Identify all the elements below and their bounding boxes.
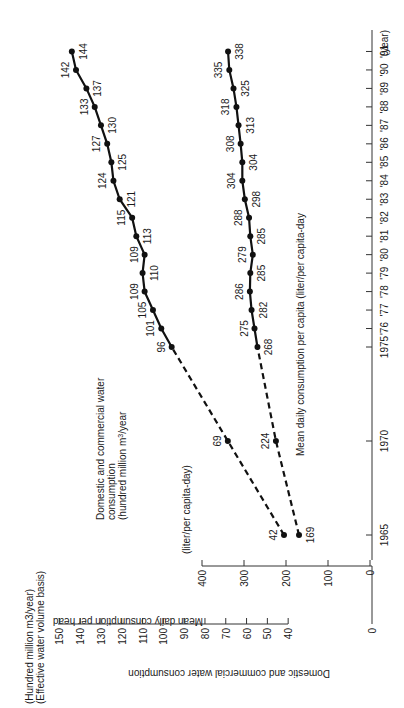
domestic-commercial-value-label: 96 xyxy=(156,341,167,353)
lower-series-title: Mean daily consumption per capita (liter… xyxy=(295,213,306,456)
per-capita-point xyxy=(247,289,253,295)
per-capita-tick-label: 200 xyxy=(281,570,292,587)
per-capita-value-label: 304 xyxy=(226,172,237,189)
domestic-commercial-value-label: 125 xyxy=(117,154,128,171)
per-capita-value-label: 282 xyxy=(258,301,269,318)
domestic-commercial-point xyxy=(142,252,148,258)
domestic-commercial-point xyxy=(110,178,116,184)
per-capita-value-label: 313 xyxy=(245,117,256,134)
consumption-tick-label: 100 xyxy=(158,628,169,645)
year-tick-label: '77 xyxy=(379,303,390,316)
year-tick-label: 1965 xyxy=(379,523,390,546)
per-capita-value-label: 335 xyxy=(213,61,224,78)
domestic-commercial-value-label: 69 xyxy=(212,435,223,447)
domestic-commercial-value-label: 115 xyxy=(116,209,127,225)
domestic-commercial-point xyxy=(150,307,156,313)
consumption-tick-label: 80 xyxy=(200,628,211,640)
per-capita-tick-label: 100 xyxy=(323,570,334,587)
per-capita-value-label: 304 xyxy=(248,154,259,171)
domestic-commercial-point xyxy=(117,196,123,202)
per-capita-value-label: 285 xyxy=(256,264,267,281)
per-capita-value-label: 224 xyxy=(260,432,271,449)
per-capita-point xyxy=(233,104,239,110)
per-capita-point xyxy=(249,307,255,313)
year-tick-label: 1975 xyxy=(379,335,390,358)
per-capita-value-label: 169 xyxy=(305,526,316,543)
domestic-commercial-value-label: 105 xyxy=(137,301,148,318)
domestic-commercial-value-label: 127 xyxy=(91,135,102,152)
year-tick-label: '85 xyxy=(379,155,390,168)
domestic-commercial-point xyxy=(69,48,75,54)
per-capita-tick-label: 300 xyxy=(239,570,250,587)
consumption-tick-label: 150 xyxy=(54,628,65,645)
year-tick-label: '83 xyxy=(379,192,390,205)
per-capita-value-label: 286 xyxy=(234,283,245,300)
per-capita-point xyxy=(247,270,253,276)
domestic-commercial-value-label: 110 xyxy=(149,265,160,281)
per-capita-point xyxy=(236,122,242,128)
consumption-tick-label: 50 xyxy=(262,628,273,640)
per-capita-value-label: 285 xyxy=(256,227,267,244)
domestic-commercial-value-label: 130 xyxy=(107,117,118,134)
year-axis: 196519701975'76'77'78'79'80'81'82'83'84'… xyxy=(366,30,390,560)
year-tick-label: '78 xyxy=(379,285,390,298)
per-capita-value-label: 279 xyxy=(237,246,248,263)
domestic-commercial-point xyxy=(104,141,110,147)
per-capita-point xyxy=(226,67,232,73)
year-tick-label: '80 xyxy=(379,248,390,261)
domestic-commercial-value-label: 42 xyxy=(268,529,279,541)
year-tick-label: '88 xyxy=(379,100,390,113)
domestic-commercial-value-label: 113 xyxy=(142,228,153,244)
upper-title-line-2: consumption xyxy=(106,463,117,520)
consumption-tick-label: 110 xyxy=(138,628,149,644)
year-tick-label: 1970 xyxy=(379,429,390,452)
year-tick-label: '79 xyxy=(379,266,390,279)
year-tick-label: '90 xyxy=(379,63,390,76)
consumption-tick-label: 70 xyxy=(221,628,232,640)
per-capita-value-label: 325 xyxy=(240,80,251,97)
per-capita-value-label: 298 xyxy=(251,190,262,207)
per-capita-point xyxy=(246,215,252,221)
year-tick-label: '86 xyxy=(379,137,390,150)
domestic-commercial-point xyxy=(108,159,114,165)
per-capita-point xyxy=(273,438,279,444)
per-capita-point xyxy=(231,85,237,91)
per-capita-point xyxy=(225,48,231,54)
domestic-commercial-point xyxy=(98,122,104,128)
per-capita-point xyxy=(247,233,253,239)
per-capita-value-label: 308 xyxy=(225,135,236,152)
year-axis-label: (year) xyxy=(379,30,390,56)
upper-title-line-1: Domestic and commercial water xyxy=(95,377,106,520)
consumption-tick-label: 60 xyxy=(242,628,253,640)
domestic-commercial-point xyxy=(83,85,89,91)
per-capita-axis-title: Mean daily consumption per head xyxy=(53,616,203,627)
consumption-axis-unit-1: (Hundred million m3/year) xyxy=(24,589,35,704)
domestic-commercial-value-label: 109 xyxy=(129,283,140,300)
per-capita-axis-ticks: 0100200300400 xyxy=(197,560,376,587)
domestic-commercial-value-label: 121 xyxy=(126,190,137,207)
consumption-tick-label: 130 xyxy=(96,628,107,645)
domestic-commercial-point xyxy=(158,326,164,332)
domestic-commercial-value-label: 142 xyxy=(60,61,71,78)
per-capita-tick-label: 0 xyxy=(365,570,376,576)
per-capita-value-label: 268 xyxy=(263,338,274,355)
upper-title-line-3: (hundred million m3/year xyxy=(117,411,129,520)
domestic-commercial-value-label: 133 xyxy=(79,98,90,115)
consumption-axis-unit-2: (Effective water volume basis) xyxy=(35,571,46,704)
per-capita-point xyxy=(296,532,302,538)
per-capita-value-label: 288 xyxy=(233,209,244,226)
domestic-commercial-point xyxy=(169,344,175,350)
consumption-tick-label: 140 xyxy=(75,628,86,645)
year-tick-label: '89 xyxy=(379,81,390,94)
year-tick-label: '76 xyxy=(379,322,390,335)
per-capita-point xyxy=(252,326,258,332)
consumption-tick-label: 40 xyxy=(283,628,294,640)
per-capita-axis-unit: (liter/per capita-day) xyxy=(181,465,192,554)
chart-figure: 196519701975'76'77'78'79'80'81'82'83'84'… xyxy=(0,0,404,708)
consumption-tick-label: 120 xyxy=(117,628,128,645)
consumption-tick-label: 90 xyxy=(179,628,190,640)
domestic-commercial-point xyxy=(133,233,139,239)
domestic-commercial-value-label: 124 xyxy=(97,172,108,189)
per-capita-value-label: 318 xyxy=(220,98,231,115)
domestic-commercial-point xyxy=(92,104,98,110)
